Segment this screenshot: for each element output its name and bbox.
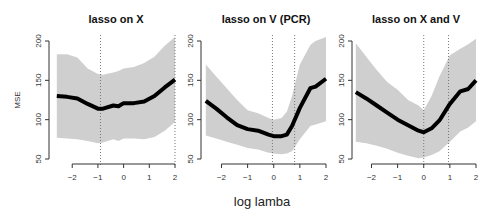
x-tick-label: 0 bbox=[121, 173, 126, 182]
x-tick-label: 1 bbox=[448, 173, 453, 182]
y-tick-label: 200 bbox=[186, 34, 195, 48]
y-tick-label: 100 bbox=[186, 112, 195, 126]
error-band bbox=[356, 39, 476, 159]
x-tick-label: −1 bbox=[393, 173, 403, 182]
y-tick-label: 150 bbox=[186, 73, 195, 87]
panel-title: lasso on X and V bbox=[372, 13, 461, 25]
y-tick-label: 150 bbox=[34, 73, 43, 87]
x-tick-label: 2 bbox=[474, 173, 479, 182]
x-tick-label: 0 bbox=[422, 173, 427, 182]
x-tick-label: −2 bbox=[68, 173, 78, 182]
panel-title: lasso on V (PCR) bbox=[222, 13, 311, 25]
x-tick-label: −2 bbox=[367, 173, 377, 182]
x-tick-label: 1 bbox=[298, 173, 303, 182]
x-tick-label: 2 bbox=[324, 173, 329, 182]
x-tick-label: 0 bbox=[272, 173, 277, 182]
y-tick-label: 100 bbox=[337, 112, 346, 126]
x-tick-label: 1 bbox=[147, 173, 152, 182]
panel-title: lasso on X bbox=[88, 13, 144, 25]
chart-figure: 50100150200−2−1012lasso on X50100150200−… bbox=[0, 0, 491, 218]
error-band bbox=[57, 37, 175, 143]
x-tick-label: −1 bbox=[243, 173, 253, 182]
y-tick-label: 50 bbox=[34, 154, 43, 163]
y-tick-label: 150 bbox=[337, 73, 346, 87]
y-axis-label: MSE bbox=[13, 91, 22, 108]
x-axis-label: log lamba bbox=[234, 194, 291, 209]
x-tick-label: −1 bbox=[93, 173, 103, 182]
y-tick-label: 50 bbox=[186, 154, 195, 163]
x-tick-label: 2 bbox=[173, 173, 178, 182]
y-tick-label: 50 bbox=[337, 154, 346, 163]
x-tick-label: −2 bbox=[217, 173, 227, 182]
y-tick-label: 100 bbox=[34, 112, 43, 126]
y-tick-label: 200 bbox=[337, 34, 346, 48]
y-tick-label: 200 bbox=[34, 34, 43, 48]
